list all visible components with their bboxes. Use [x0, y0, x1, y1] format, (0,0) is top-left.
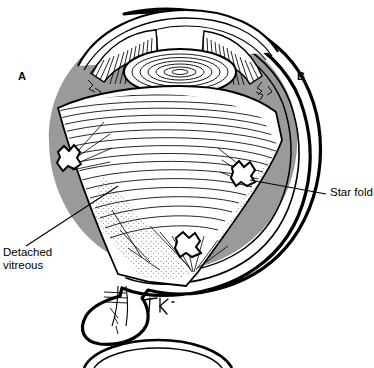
star-fold-bottom	[175, 232, 201, 257]
label-detached-vitreous: Detached vitreous	[3, 246, 52, 272]
eye-cross-section-figure: A B Star fold Detached vitreous	[0, 0, 374, 368]
eye-illustration-svg	[0, 0, 374, 368]
star-fold-right	[231, 161, 255, 186]
label-star-fold: Star fold	[330, 186, 373, 199]
label-b: B	[297, 70, 305, 82]
label-a: A	[18, 70, 26, 82]
